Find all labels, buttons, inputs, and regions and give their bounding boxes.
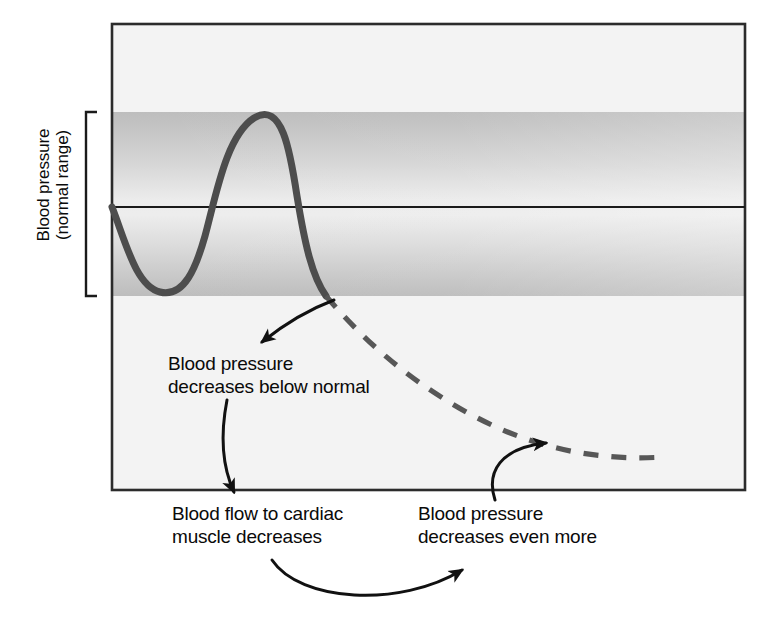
- callout-bp-more-line2: decreases even more: [418, 525, 597, 548]
- figure-canvas: [0, 0, 765, 622]
- arrow-blood-flow-to-bp-more: [272, 560, 462, 595]
- normal-range-bracket: [86, 112, 97, 296]
- callout-blood-flow-line1: Blood flow to cardiac: [172, 502, 343, 525]
- callout-bp-decreases-line1: Blood pressure: [168, 352, 370, 375]
- callout-blood-flow-line2: muscle decreases: [172, 525, 343, 548]
- normal-range-band-fade: [112, 112, 745, 296]
- callout-blood-flow-to-cardiac-muscle-decreases: Blood flow to cardiac muscle decreases: [172, 502, 343, 548]
- blood-pressure-feedback-figure: Blood pressure (normal range) Blood pres…: [0, 0, 765, 622]
- callout-bp-decreases-line2: decreases below normal: [168, 375, 370, 398]
- callout-bp-decreases-below-normal: Blood pressure decreases below normal: [168, 352, 370, 398]
- callout-bp-more-line1: Blood pressure: [418, 502, 597, 525]
- callout-bp-decreases-even-more: Blood pressure decreases even more: [418, 502, 597, 548]
